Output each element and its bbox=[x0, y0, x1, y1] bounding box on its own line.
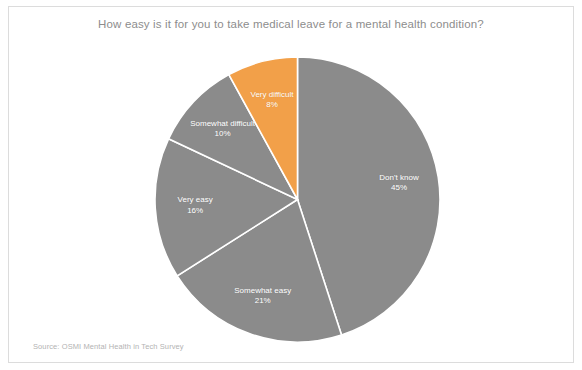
chart-title: How easy is it for you to take medical l… bbox=[0, 18, 582, 30]
source-note: Source: OSMI Mental Health in Tech Surve… bbox=[33, 342, 184, 351]
pie-plot-area: Don't know45%Somewhat easy21%Very easy16… bbox=[155, 57, 440, 342]
pie-chart-figure: How easy is it for you to take medical l… bbox=[0, 0, 582, 370]
pie-svg bbox=[155, 57, 440, 342]
pie-slice-group bbox=[155, 57, 440, 342]
